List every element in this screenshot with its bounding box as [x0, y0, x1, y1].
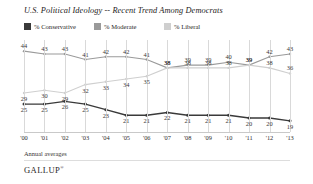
data-label: 44: [21, 42, 27, 49]
data-label: 30: [41, 92, 47, 99]
legend-label: % Moderate: [104, 23, 136, 30]
x-axis-tick-label: '00: [20, 134, 28, 141]
data-label: 39: [246, 56, 252, 63]
data-label: 43: [287, 45, 293, 52]
legend-item-conservative: % Conservative: [24, 23, 76, 30]
x-axis-labels: '00'01'02'03'04'05'06'07'08'09'10'11'12'…: [24, 134, 290, 146]
legend-swatch-icon: [94, 23, 101, 30]
gridline-tick: [65, 40, 66, 132]
data-label: 36: [287, 64, 293, 71]
gridline-tick: [290, 40, 291, 132]
data-label: 43: [41, 45, 47, 52]
x-axis-tick-label: '04: [102, 134, 110, 141]
x-axis-tick-label: '07: [163, 134, 171, 141]
data-label: 35: [144, 78, 150, 85]
legend-label: % Conservative: [34, 23, 76, 30]
data-label: 21: [144, 117, 150, 124]
chart-title: U.S. Political Ideology -- Recent Trend …: [24, 6, 223, 15]
data-label: 25: [82, 106, 88, 113]
data-label: 33: [103, 84, 109, 91]
data-label: 21: [225, 117, 231, 124]
data-label: 25: [41, 106, 47, 113]
data-label: 38: [225, 59, 231, 66]
x-axis-tick-label: '11: [245, 134, 252, 141]
data-label: 41: [144, 51, 150, 58]
gallup-logo: GALLUP®: [24, 165, 64, 175]
data-label: 38: [266, 59, 272, 66]
x-axis-tick-label: '01: [41, 134, 49, 141]
data-label: 38: [184, 59, 190, 66]
data-label: 23: [103, 112, 109, 119]
x-axis-tick-label: '03: [82, 134, 90, 141]
gridline-tick: [24, 40, 25, 132]
data-label: 29: [62, 95, 68, 102]
data-label: 43: [62, 45, 68, 52]
data-label: 42: [266, 48, 272, 55]
data-label: 20: [266, 120, 272, 127]
gridline-tick: [44, 40, 45, 132]
series-lines: [24, 40, 290, 132]
data-label: 42: [123, 48, 129, 55]
x-axis-tick-label: '08: [184, 134, 192, 141]
data-label: 21: [205, 117, 211, 124]
footer-divider: [24, 160, 290, 161]
axis-baseline: [24, 132, 290, 133]
data-label: 21: [184, 117, 190, 124]
data-label: 26: [62, 103, 68, 110]
plot-area: 2525262523212122212121202019444343414242…: [24, 40, 290, 132]
x-axis-tick-label: '13: [286, 134, 294, 141]
brand-text: GALLUP: [24, 165, 60, 175]
x-axis-tick-label: '10: [225, 134, 233, 141]
legend-swatch-icon: [24, 23, 31, 30]
data-label: 29: [21, 95, 27, 102]
legend-item-moderate: % Moderate: [94, 23, 136, 30]
gridline-tick: [249, 40, 250, 132]
legend-item-liberal: % Liberal: [164, 23, 200, 30]
data-label: 20: [246, 120, 252, 127]
data-label: 38: [205, 59, 211, 66]
series-line: [24, 65, 290, 93]
data-label: 25: [21, 106, 27, 113]
data-label: 32: [82, 87, 88, 94]
data-label: 34: [123, 81, 129, 88]
data-label: 38: [164, 59, 170, 66]
x-axis-tick-label: '02: [61, 134, 69, 141]
x-axis-tick-label: '09: [204, 134, 212, 141]
data-label: 42: [103, 48, 109, 55]
data-label: 41: [82, 51, 88, 58]
registered-mark: ®: [60, 165, 64, 170]
x-axis-tick-label: '05: [123, 134, 131, 141]
x-axis-tick-label: '12: [266, 134, 274, 141]
x-axis-tick-label: '06: [143, 134, 151, 141]
legend-label: % Liberal: [174, 23, 200, 30]
gallup-line-chart: U.S. Political Ideology -- Recent Trend …: [0, 0, 313, 184]
data-label: 19: [287, 123, 293, 130]
legend-swatch-icon: [164, 23, 171, 30]
data-label: 21: [123, 117, 129, 124]
data-label: 22: [164, 114, 170, 121]
chart-note: Annual averages: [24, 150, 67, 157]
